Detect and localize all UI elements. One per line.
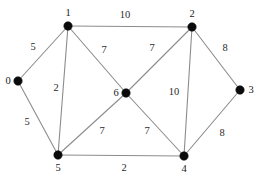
edge-weight-3-4: 8	[219, 128, 224, 139]
graph-edge-5-4	[58, 155, 184, 156]
edge-weight-1-2: 10	[120, 10, 131, 21]
graph-edge-2-4	[184, 27, 192, 156]
graph-edge-1-2	[68, 26, 192, 27]
graph-canvas	[0, 0, 262, 177]
graph-figure: 551027781087720123456	[0, 0, 262, 177]
edge-weight-1-6: 7	[101, 45, 106, 56]
node-label-3: 3	[248, 85, 253, 96]
graph-node-0	[14, 77, 22, 85]
graph-node-4	[180, 152, 188, 160]
edge-weight-2-6: 7	[149, 43, 154, 54]
graph-node-6	[122, 89, 130, 97]
graph-node-5	[54, 151, 62, 159]
graph-edge-1-6	[68, 26, 126, 93]
edge-weight-2-3: 8	[222, 43, 227, 54]
edge-weight-6-4: 7	[144, 126, 149, 137]
node-label-5: 5	[55, 163, 60, 174]
node-label-0: 0	[5, 76, 10, 87]
graph-edge-5-6	[58, 93, 126, 155]
graph-edge-2-3	[192, 27, 240, 90]
edge-weight-5-6: 7	[99, 126, 104, 137]
graph-node-2	[188, 23, 196, 31]
node-label-6: 6	[113, 88, 118, 99]
node-label-1: 1	[65, 8, 70, 19]
node-label-2: 2	[189, 9, 194, 20]
edge-weight-5-4: 2	[121, 163, 126, 174]
nodes-layer	[14, 22, 244, 160]
graph-edge-3-4	[184, 90, 240, 156]
node-label-4: 4	[181, 164, 186, 175]
graph-edge-2-6	[126, 27, 192, 93]
graph-edge-0-1	[18, 26, 68, 81]
graph-node-3	[236, 86, 244, 94]
edge-weight-0-1: 5	[30, 42, 35, 53]
edge-weight-0-5: 5	[24, 117, 29, 128]
graph-edge-6-4	[126, 93, 184, 156]
graph-edge-1-5	[58, 26, 68, 155]
edge-weight-2-4: 10	[169, 87, 180, 98]
edge-weight-1-5: 2	[53, 83, 58, 94]
graph-node-1	[64, 22, 72, 30]
